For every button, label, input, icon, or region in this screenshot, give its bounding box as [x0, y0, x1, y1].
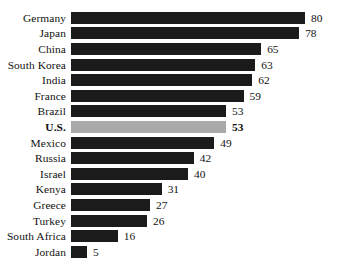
bar-value-label: 80	[311, 12, 322, 24]
bar-row: Brazil53	[0, 104, 343, 120]
bar-row: U.S.53	[0, 119, 343, 135]
bar	[71, 105, 226, 117]
bar-value-label: 65	[267, 43, 278, 55]
bar-row: Israel40	[0, 166, 343, 182]
bar-track: 65	[71, 43, 343, 55]
bar-track: 49	[71, 137, 343, 149]
bar-category-label: South Africa	[0, 230, 71, 242]
bar-value-label: 5	[93, 246, 99, 258]
bar-track: 27	[71, 199, 343, 211]
bar-track: 63	[71, 59, 343, 71]
bar-value-label: 59	[250, 90, 261, 102]
bar-row: Japan78	[0, 26, 343, 42]
bar	[71, 246, 87, 258]
bar-track: 40	[71, 168, 343, 180]
bar	[71, 137, 214, 149]
chart-title	[0, 0, 343, 8]
bar	[71, 215, 147, 227]
bar-value-label: 16	[124, 230, 135, 242]
bar-category-label: Germany	[0, 12, 71, 24]
bar	[71, 12, 305, 24]
bar-track: 26	[71, 215, 343, 227]
bar-value-label: 42	[200, 152, 211, 164]
bar-row: Kenya31	[0, 182, 343, 198]
bar-value-label: 53	[232, 121, 243, 133]
bar-chart: Germany80Japan78China65South Korea63Indi…	[0, 0, 343, 267]
bar-category-label: Japan	[0, 27, 71, 39]
bar-row: Germany80	[0, 10, 343, 26]
bar-category-label: Turkey	[0, 215, 71, 227]
bar-row: South Africa16	[0, 228, 343, 244]
bar-rows: Germany80Japan78China65South Korea63Indi…	[0, 10, 343, 260]
bar	[71, 59, 255, 71]
bar-category-label: Russia	[0, 152, 71, 164]
bar-value-label: 53	[232, 105, 243, 117]
bar-category-label: Israel	[0, 168, 71, 180]
bar-row: Russia42	[0, 150, 343, 166]
bar-track: 80	[71, 12, 343, 24]
bar-track: 53	[71, 121, 343, 133]
bar-row: France59	[0, 88, 343, 104]
bar	[71, 152, 194, 164]
bar-category-label: Greece	[0, 199, 71, 211]
bar-value-label: 31	[168, 183, 179, 195]
bar-track: 42	[71, 152, 343, 164]
bar-category-label: France	[0, 90, 71, 102]
bar-value-label: 62	[258, 74, 269, 86]
bar-category-label: China	[0, 43, 71, 55]
bar-row: China65	[0, 41, 343, 57]
bar	[71, 168, 188, 180]
bar-row: South Korea63	[0, 57, 343, 73]
bar-category-label: Kenya	[0, 183, 71, 195]
bar-row: Greece27	[0, 197, 343, 213]
bar-row: India62	[0, 72, 343, 88]
bar-value-label: 26	[153, 215, 164, 227]
bar-track: 5	[71, 246, 343, 258]
bar-category-label: Mexico	[0, 137, 71, 149]
bar-value-label: 27	[156, 199, 167, 211]
bar-track: 78	[71, 27, 343, 39]
bar-track: 53	[71, 105, 343, 117]
bar-row: Turkey26	[0, 213, 343, 229]
bar-category-label: U.S.	[0, 121, 71, 133]
bar-category-label: South Korea	[0, 59, 71, 71]
bar	[71, 230, 118, 242]
bar-value-label: 63	[261, 59, 272, 71]
bar	[71, 43, 261, 55]
bar	[71, 121, 226, 133]
bar-track: 62	[71, 74, 343, 86]
bar-category-label: Brazil	[0, 105, 71, 117]
bar	[71, 90, 244, 102]
bar-track: 59	[71, 90, 343, 102]
bar-value-label: 78	[305, 27, 316, 39]
bar-track: 31	[71, 183, 343, 195]
bar-row: Mexico49	[0, 135, 343, 151]
bar	[71, 74, 252, 86]
bar-category-label: Jordan	[0, 246, 71, 258]
bar	[71, 199, 150, 211]
bar-row: Jordan5	[0, 244, 343, 260]
bar-value-label: 40	[194, 168, 205, 180]
bar	[71, 183, 162, 195]
bar-track: 16	[71, 230, 343, 242]
bar-category-label: India	[0, 74, 71, 86]
bar-value-label: 49	[220, 137, 231, 149]
bar	[71, 27, 299, 39]
